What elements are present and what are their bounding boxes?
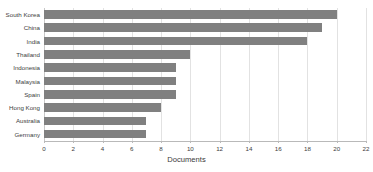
value-axis-tick-labels: 0246810121416182022: [0, 143, 373, 154]
tick-label: 2: [72, 143, 75, 154]
bar-row: [44, 8, 366, 21]
bar-row: [44, 48, 366, 61]
tick-mark: [307, 141, 308, 143]
bar-series: [44, 8, 366, 141]
category-label: Australia: [16, 114, 40, 127]
category-label: Germany: [15, 128, 40, 141]
bar-row: [44, 21, 366, 34]
category-label: Malaysia: [16, 75, 40, 88]
tick-label: 8: [159, 143, 162, 154]
bar-row: [44, 128, 366, 141]
value-axis-line: [44, 141, 366, 142]
bar: [44, 90, 176, 99]
category-label: Thailand: [16, 48, 40, 61]
tick-label: 18: [304, 143, 311, 154]
tick-label: 22: [363, 143, 370, 154]
tick-mark: [278, 141, 279, 143]
tick-mark: [249, 141, 250, 143]
tick-label: 10: [187, 143, 194, 154]
tick-label: 12: [216, 143, 223, 154]
tick-mark: [103, 141, 104, 143]
bar: [44, 23, 322, 32]
plot-area: [44, 8, 366, 141]
tick-label: 6: [130, 143, 133, 154]
tick-mark: [337, 141, 338, 143]
bar-row: [44, 35, 366, 48]
bar-row: [44, 114, 366, 127]
bar: [44, 130, 146, 139]
tick-label: 20: [333, 143, 340, 154]
tick-label: 14: [245, 143, 252, 154]
tick-mark: [161, 141, 162, 143]
bar: [44, 10, 337, 19]
bar-row: [44, 75, 366, 88]
bar: [44, 77, 176, 86]
category-label: India: [27, 35, 40, 48]
bar-row: [44, 61, 366, 74]
tick-label: 4: [101, 143, 104, 154]
tick-mark: [132, 141, 133, 143]
tick-mark: [366, 141, 367, 143]
bar: [44, 63, 176, 72]
tick-mark: [220, 141, 221, 143]
category-label: Hong Kong: [9, 101, 40, 114]
tick-label: 0: [42, 143, 45, 154]
gridline: [366, 8, 367, 141]
bar: [44, 103, 161, 112]
bar: [44, 37, 307, 46]
bar: [44, 117, 146, 126]
tick-label: 16: [275, 143, 282, 154]
bar-row: [44, 88, 366, 101]
category-label: Spain: [24, 88, 40, 101]
x-axis-title: Documents: [0, 155, 373, 164]
tick-mark: [44, 141, 45, 143]
bar-row: [44, 101, 366, 114]
category-label: Indonesia: [13, 61, 40, 74]
tick-mark: [190, 141, 191, 143]
bar: [44, 50, 190, 59]
category-label: China: [24, 21, 40, 34]
tick-mark: [73, 141, 74, 143]
category-axis-labels: South KoreaChinaIndiaThailandIndonesiaMa…: [0, 8, 40, 141]
category-label: South Korea: [6, 8, 40, 21]
bar-chart: South KoreaChinaIndiaThailandIndonesiaMa…: [0, 0, 373, 172]
